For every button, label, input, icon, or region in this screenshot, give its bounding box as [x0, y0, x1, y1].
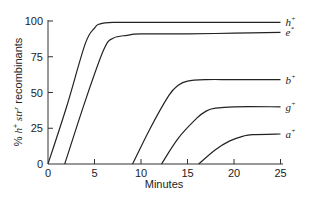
x-tick-label: 0 — [45, 167, 51, 179]
x-tick-label: 20 — [228, 167, 240, 179]
curve-g — [162, 107, 281, 164]
series-label-e: e* — [286, 25, 295, 38]
curve-b — [133, 80, 281, 164]
y-tick-label: 50 — [31, 87, 43, 99]
x-tick-label: 25 — [274, 167, 286, 179]
recombinant-time-chart: % h+ strr recombinants 0255075100 051015… — [0, 0, 313, 198]
y-tick-label: 0 — [37, 158, 43, 170]
y-axis-title: % h+ strr recombinants — [12, 37, 24, 146]
y-ticks: 0255075100 — [25, 15, 53, 170]
curve-a — [199, 134, 281, 164]
curve-e — [65, 32, 281, 164]
y-tick-label: 100 — [25, 15, 43, 27]
series-labels: h+e*b+g+a+ — [286, 15, 297, 140]
axes — [48, 20, 283, 164]
series-label-g: g+ — [286, 100, 297, 113]
x-axis-title: Minutes — [145, 178, 184, 190]
x-tick-label: 5 — [91, 167, 97, 179]
y-tick-label: 25 — [31, 122, 43, 134]
series-curves — [48, 22, 281, 164]
series-label-b: b+ — [286, 73, 297, 86]
x-ticks: 0510152025 — [45, 159, 287, 179]
curve-h — [48, 22, 281, 164]
y-tick-label: 75 — [31, 51, 43, 63]
series-label-a: a+ — [286, 127, 297, 140]
